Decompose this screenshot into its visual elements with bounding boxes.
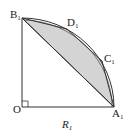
label-a1: A1 (112, 107, 124, 121)
label-d1: D1 (67, 16, 79, 30)
label-radius-r1: R1 (61, 118, 72, 132)
label-c1: C1 (104, 52, 115, 66)
quarter-circle-diagram: B1 D1 C1 O A1 R1 (0, 0, 131, 139)
right-angle-marker (22, 101, 28, 107)
label-o: O (13, 103, 21, 115)
label-b1: B1 (10, 8, 21, 22)
